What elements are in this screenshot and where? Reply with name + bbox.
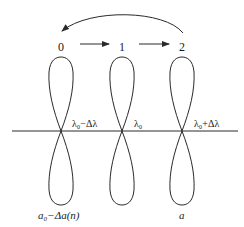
wavelength-label-1: λ₀ <box>134 119 142 129</box>
state-label-2: 2 <box>179 41 185 53</box>
diagram-canvas: 0 1 2 λ₀−Δλ λ₀ λ₀+Δλ a₀−Δa(n) a <box>0 0 244 227</box>
state-label-1: 1 <box>119 41 125 53</box>
wavelength-label-0: λ₀−Δλ <box>72 119 97 129</box>
wavelength-label-2: λ₀+Δλ <box>194 119 219 129</box>
bottom-label-0: a₀−Δa(n) <box>38 210 80 221</box>
return-arrow <box>62 15 183 33</box>
bottom-label-2: a <box>179 210 185 221</box>
diagram-svg <box>0 0 244 227</box>
state-label-0: 0 <box>58 41 64 53</box>
